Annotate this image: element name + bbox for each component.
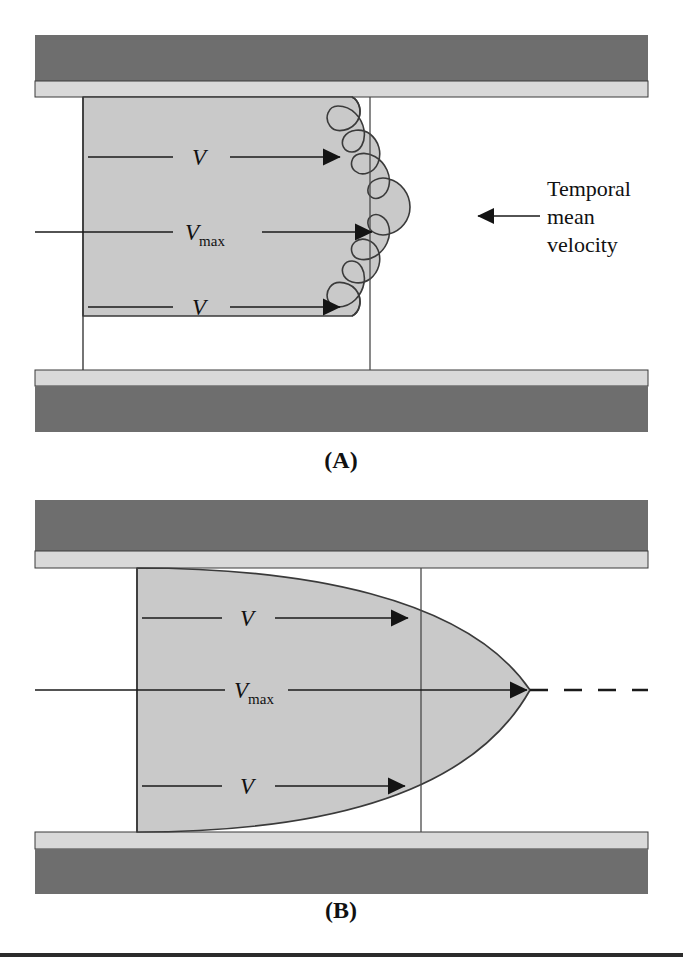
figure-root: V Vmax V Temporal mean veloci [0,0,683,976]
panel-b-caption: (B) [325,897,357,923]
wall-light-band [35,832,648,849]
panel-b-bottom-wall [35,832,648,894]
wall-dark-band [35,386,648,432]
annotation-line-2: mean [547,204,595,229]
annotation-line-1: Temporal [547,176,631,201]
footer-rule [0,953,683,957]
wall-light-band [35,81,648,97]
temporal-mean-velocity-annotation: Temporal mean velocity [478,176,631,257]
wall-light-band [35,370,648,386]
panel-b: V Vmax V (B) [35,500,648,923]
wall-dark-band [35,500,648,551]
wall-light-band [35,551,648,568]
panel-a-caption: (A) [324,447,357,473]
wall-dark-band [35,849,648,894]
laminar-velocity-profile-fill [137,568,530,832]
panel-b-top-wall [35,500,648,568]
panel-a-top-wall [35,35,648,97]
annotation-line-3: velocity [547,232,618,257]
panel-a: V Vmax V Temporal mean veloci [35,35,648,473]
velocity-profile-figure: V Vmax V Temporal mean veloci [0,0,683,976]
panel-a-bottom-wall [35,370,648,432]
wall-dark-band [35,35,648,81]
turbulent-velocity-profile-fill [83,97,410,316]
